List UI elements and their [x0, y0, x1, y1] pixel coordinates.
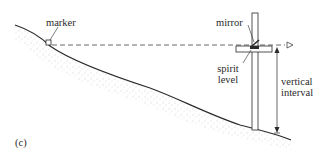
vertical-interval-label-line2: interval: [281, 87, 313, 98]
spirit-level-label-line1: spirit: [213, 63, 243, 74]
diagram-canvas: marker mirror spirit level vertical inte…: [0, 0, 327, 153]
mirror-label: mirror: [216, 17, 243, 28]
marker-leader: [50, 27, 58, 40]
spirit-level-label-line2: level: [213, 74, 243, 85]
marker-peg: [46, 40, 51, 45]
vertical-interval-label-line1: vertical: [281, 76, 312, 87]
vertical-interval-arrow-top-icon: [275, 47, 280, 53]
spirit-level-bubble: [250, 46, 259, 49]
sight-arrow-icon: [287, 42, 293, 48]
panel-label: (c): [15, 137, 27, 148]
ground-stipple: [15, 25, 291, 150]
marker-label: marker: [46, 17, 76, 28]
vertical-interval-arrow-bottom-icon: [275, 127, 280, 133]
staff-post: [252, 13, 258, 130]
ground-line: [15, 25, 291, 140]
